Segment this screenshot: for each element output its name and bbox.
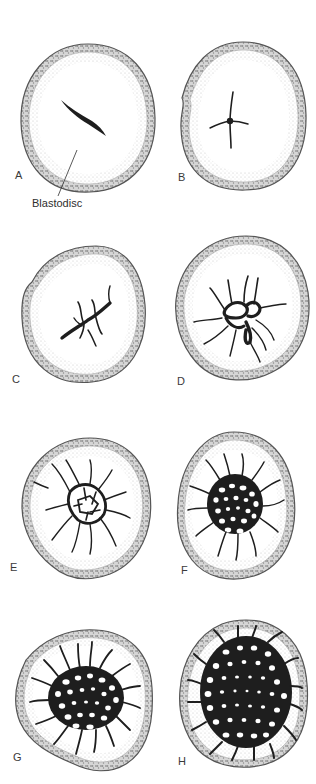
panel-label-g: G bbox=[13, 752, 22, 763]
panel-label-b: B bbox=[178, 172, 185, 183]
panel-label-a: A bbox=[15, 170, 22, 181]
panel-e bbox=[22, 438, 151, 579]
panel-d bbox=[176, 236, 309, 380]
panel-c bbox=[22, 246, 145, 382]
panel-h bbox=[180, 620, 308, 767]
panel-label-c: C bbox=[12, 374, 20, 385]
blastodisc-callout-label: Blastodisc bbox=[32, 198, 82, 209]
yolk-a bbox=[38, 62, 138, 174]
panel-label-d: D bbox=[177, 376, 185, 387]
panel-a bbox=[21, 44, 155, 196]
panel-f bbox=[178, 432, 295, 579]
yolk-d bbox=[193, 254, 293, 362]
blastodisc-center-b bbox=[227, 118, 233, 124]
panel-g bbox=[16, 630, 153, 771]
panel-label-f: F bbox=[181, 565, 188, 576]
panel-label-e: E bbox=[10, 562, 17, 573]
egg-development-figure bbox=[0, 0, 316, 784]
panel-b bbox=[181, 42, 306, 190]
panel-label-h: H bbox=[178, 756, 186, 767]
